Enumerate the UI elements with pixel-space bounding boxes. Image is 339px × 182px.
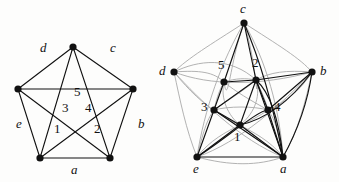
label-edge-d: d bbox=[40, 41, 47, 54]
vertex-d bbox=[170, 68, 177, 75]
edge-1a bbox=[240, 125, 283, 157]
vertex-c bbox=[240, 19, 247, 26]
vertex-3 bbox=[210, 106, 217, 113]
vertex-5 bbox=[220, 78, 227, 85]
right-figure-k5-dual: c b a e d 5 2 3 4 1 bbox=[170, 0, 339, 182]
label-edge-c: c bbox=[110, 41, 116, 54]
vertex-left bbox=[14, 85, 21, 92]
vertex-4 bbox=[264, 106, 271, 113]
figure-canvas: a b c d e 1 2 3 4 5 bbox=[0, 0, 339, 182]
ghost-k5-curves bbox=[174, 23, 312, 164]
label-vertex-c: c bbox=[240, 2, 246, 15]
label-vertex-5: 5 bbox=[218, 58, 225, 71]
edge-2-3 bbox=[214, 80, 256, 110]
left-figure-k5: a b c d e 1 2 3 4 5 bbox=[0, 0, 170, 182]
label-face-4: 4 bbox=[85, 101, 92, 114]
ghost-edge-ea bbox=[197, 157, 283, 164]
label-vertex-a: a bbox=[280, 162, 287, 175]
label-face-1: 1 bbox=[54, 122, 61, 135]
label-vertex-e: e bbox=[193, 162, 199, 175]
label-face-2: 2 bbox=[94, 122, 101, 135]
vertex-e bbox=[193, 153, 200, 160]
right-graph-svg bbox=[170, 0, 339, 182]
ghost-edge-cd bbox=[174, 23, 244, 72]
label-vertex-4: 4 bbox=[274, 100, 281, 113]
left-graph-svg bbox=[0, 0, 170, 182]
vertex-a bbox=[279, 153, 286, 160]
vertex-right bbox=[129, 85, 136, 92]
edge-c bbox=[73, 47, 133, 89]
vertex-2 bbox=[252, 76, 259, 83]
vertex-b bbox=[308, 68, 315, 75]
edge-b bbox=[110, 89, 133, 158]
vertex-bottom-right bbox=[106, 154, 113, 161]
label-vertex-1: 1 bbox=[234, 130, 241, 143]
label-edge-a: a bbox=[71, 163, 78, 176]
edge-5c bbox=[224, 23, 244, 82]
vertex-top bbox=[69, 43, 76, 50]
left-vertices bbox=[14, 43, 136, 161]
label-edge-b: b bbox=[138, 117, 145, 130]
label-vertex-d: d bbox=[159, 64, 166, 77]
ghost-edge-de bbox=[174, 72, 197, 157]
label-face-5: 5 bbox=[74, 85, 81, 98]
label-vertex-3: 3 bbox=[201, 100, 208, 113]
label-vertex-b: b bbox=[320, 64, 327, 77]
ghost-edge-34 bbox=[214, 107, 268, 110]
label-edge-e: e bbox=[16, 117, 22, 130]
vertex-bottom-left bbox=[36, 154, 43, 161]
vertex-1 bbox=[236, 121, 243, 128]
edge-2c bbox=[244, 23, 256, 80]
label-face-3: 3 bbox=[62, 101, 69, 114]
label-vertex-2: 2 bbox=[252, 56, 259, 69]
